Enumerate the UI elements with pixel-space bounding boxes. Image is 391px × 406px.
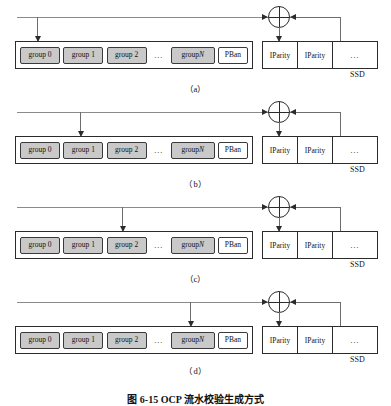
bus-line-a — [17, 17, 300, 18]
pban-box[interactable]: PBan — [218, 237, 248, 254]
group-container-b: group 0 group 1 group 2 ... group N PBan — [15, 136, 253, 164]
group-box-0[interactable]: group 0 — [20, 142, 60, 159]
group-box-n[interactable]: group N — [171, 142, 215, 159]
ssd-label-b: SSD — [350, 165, 365, 174]
iparity-cell-2[interactable]: IParity — [298, 232, 333, 258]
ssd-remaining-cell: ... — [333, 42, 377, 68]
feedback-line-horizontal — [296, 302, 341, 303]
group-ellipsis: ... — [147, 51, 171, 60]
ssd-remaining-cell: ... — [333, 232, 377, 258]
drop-arrow-c — [122, 207, 123, 231]
xor-input-left-arrow-icon — [262, 204, 268, 210]
group-box-0[interactable]: group 0 — [20, 332, 60, 349]
panel-caption-d: （d） — [0, 364, 391, 376]
group-n-prefix: group — [181, 146, 199, 154]
ssd-remaining-cell: ... — [333, 137, 377, 163]
group-n-index: N — [199, 51, 204, 59]
ssd-container-c: IParity IParity ... — [262, 231, 378, 259]
xor-output-line — [279, 312, 280, 326]
group-box-1[interactable]: group 1 — [63, 142, 103, 159]
group-box-2[interactable]: group 2 — [107, 142, 147, 159]
iparity-cell-1[interactable]: IParity — [263, 42, 298, 68]
iparity-cell-2[interactable]: IParity — [298, 137, 333, 163]
group-ellipsis: ... — [147, 241, 171, 250]
iparity-cell-1[interactable]: IParity — [263, 232, 298, 258]
ssd-remaining-cell: ... — [333, 327, 377, 353]
feedback-line-vertical — [340, 302, 341, 326]
diagram-panel-c: group 0 group 1 group 2 ... group N PBan… — [0, 190, 391, 285]
feedback-line-horizontal — [296, 207, 341, 208]
group-box-n[interactable]: group N — [171, 237, 215, 254]
pban-box[interactable]: PBan — [218, 47, 248, 64]
group-n-index: N — [199, 336, 204, 344]
diagram-panel-a: group 0 group 1 group 2 ... group N PBan… — [0, 0, 391, 95]
group-n-prefix: group — [181, 241, 199, 249]
xor-input-left-arrow-icon — [262, 109, 268, 115]
xor-output-line — [279, 122, 280, 136]
panel-caption-a: （a） — [0, 82, 391, 94]
iparity-cell-1[interactable]: IParity — [263, 327, 298, 353]
xor-node-icon — [268, 196, 290, 218]
ssd-container-b: IParity IParity ... — [262, 136, 378, 164]
ssd-label-a: SSD — [350, 70, 365, 79]
group-box-0[interactable]: group 0 — [20, 47, 60, 64]
diagram-panel-b: group 0 group 1 group 2 ... group N PBan… — [0, 95, 391, 190]
xor-input-left-arrow-icon — [262, 14, 268, 20]
iparity-cell-1[interactable]: IParity — [263, 137, 298, 163]
group-container-d: group 0 group 1 group 2 ... group N PBan — [15, 326, 253, 354]
group-ellipsis: ... — [147, 336, 171, 345]
group-ellipsis: ... — [147, 146, 171, 155]
ssd-container-d: IParity IParity ... — [262, 326, 378, 354]
group-box-1[interactable]: group 1 — [63, 237, 103, 254]
group-box-2[interactable]: group 2 — [107, 47, 147, 64]
feedback-line-horizontal — [296, 17, 341, 18]
pban-box[interactable]: PBan — [218, 142, 248, 159]
ssd-label-d: SSD — [350, 355, 365, 364]
drop-arrow-a — [37, 17, 38, 41]
bus-line-c — [17, 207, 300, 208]
pban-box[interactable]: PBan — [218, 332, 248, 349]
xor-output-line — [279, 27, 280, 41]
xor-input-left-arrow-icon — [262, 299, 268, 305]
xor-node-icon — [268, 101, 290, 123]
group-box-1[interactable]: group 1 — [63, 332, 103, 349]
group-box-2[interactable]: group 2 — [107, 237, 147, 254]
feedback-line-vertical — [340, 207, 341, 231]
drop-arrow-d — [190, 302, 191, 326]
group-box-1[interactable]: group 1 — [63, 47, 103, 64]
group-n-index: N — [199, 146, 204, 154]
figure-caption: 图 6-15 OCP 流水校验生成方式 — [0, 391, 391, 406]
ssd-container-a: IParity IParity ... — [262, 41, 378, 69]
group-n-prefix: group — [181, 51, 199, 59]
group-container-c: group 0 group 1 group 2 ... group N PBan — [15, 231, 253, 259]
diagram-panel-d: group 0 group 1 group 2 ... group N PBan… — [0, 285, 391, 380]
group-n-index: N — [199, 241, 204, 249]
feedback-line-horizontal — [296, 112, 341, 113]
group-box-2[interactable]: group 2 — [107, 332, 147, 349]
panel-caption-c: （c） — [0, 272, 391, 284]
drop-arrow-b — [80, 112, 81, 136]
iparity-cell-2[interactable]: IParity — [298, 327, 333, 353]
group-container-a: group 0 group 1 group 2 ... group N PBan — [15, 41, 253, 69]
feedback-line-vertical — [340, 17, 341, 41]
ssd-label-c: SSD — [350, 260, 365, 269]
group-box-n[interactable]: group N — [171, 47, 215, 64]
xor-output-line — [279, 217, 280, 231]
xor-node-icon — [268, 291, 290, 313]
group-n-prefix: group — [181, 336, 199, 344]
bus-line-b — [17, 112, 300, 113]
iparity-cell-2[interactable]: IParity — [298, 42, 333, 68]
group-box-0[interactable]: group 0 — [20, 237, 60, 254]
feedback-line-vertical — [340, 112, 341, 136]
panel-caption-b: （b） — [0, 177, 391, 189]
bus-line-d — [17, 302, 300, 303]
group-box-n[interactable]: group N — [171, 332, 215, 349]
xor-node-icon — [268, 6, 290, 28]
